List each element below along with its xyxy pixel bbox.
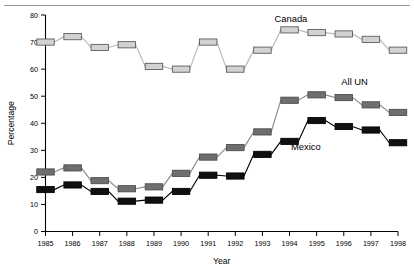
data-point-marker[interactable] [145, 197, 163, 203]
x-tick-label: 1994 [282, 239, 298, 248]
x-tick-label: 1993 [254, 239, 270, 248]
data-point-marker[interactable] [227, 66, 245, 72]
top-divider-rule [4, 5, 410, 6]
x-tick-label: 1991 [200, 239, 216, 248]
data-point-marker[interactable] [254, 129, 271, 135]
data-point-marker[interactable] [199, 172, 217, 178]
data-point-marker[interactable] [389, 47, 407, 53]
data-point-marker[interactable] [362, 36, 380, 42]
data-point-marker[interactable] [118, 198, 136, 204]
data-point-marker[interactable] [37, 169, 55, 175]
y-tick-label: 50 [30, 92, 38, 101]
data-point-marker[interactable] [389, 140, 407, 146]
data-point-marker[interactable] [254, 151, 271, 157]
chart-figure: 0102030405060708019851986198719881989199… [0, 0, 414, 268]
series-all-un: All UN [37, 76, 407, 191]
data-point-marker[interactable] [172, 66, 190, 72]
data-point-marker[interactable] [64, 165, 81, 171]
series-label-mexico: Mexico [291, 141, 321, 152]
x-tick-label: 1985 [38, 239, 54, 248]
y-tick-label: 30 [30, 146, 38, 155]
x-tick-label: 1987 [92, 239, 108, 248]
x-axis-title: Year [213, 256, 231, 266]
data-point-marker[interactable] [389, 109, 407, 115]
data-point-marker[interactable] [37, 39, 55, 45]
series-mexico: Mexico [37, 117, 407, 204]
data-point-marker[interactable] [91, 188, 109, 194]
x-tick-label: 1986 [65, 239, 81, 248]
y-tick-label: 0 [34, 227, 38, 236]
y-tick-label: 10 [30, 200, 38, 209]
data-point-marker[interactable] [254, 47, 271, 53]
x-tick-label: 1998 [390, 239, 406, 248]
series-label-canada: Canada [274, 13, 308, 24]
data-point-marker[interactable] [281, 27, 299, 33]
x-axis-ticks: 1985198619871988198919901991199219931994… [38, 232, 407, 249]
data-point-marker[interactable] [362, 102, 380, 108]
data-point-marker[interactable] [199, 154, 217, 160]
data-point-marker[interactable] [64, 182, 81, 188]
data-point-marker[interactable] [362, 127, 380, 133]
data-point-marker[interactable] [118, 186, 136, 192]
x-tick-label: 1996 [336, 239, 352, 248]
data-point-marker[interactable] [172, 170, 190, 176]
data-point-marker[interactable] [308, 117, 326, 123]
data-point-marker[interactable] [308, 92, 326, 98]
data-point-marker[interactable] [335, 94, 353, 100]
data-point-marker[interactable] [145, 63, 163, 69]
data-point-marker[interactable] [335, 123, 353, 129]
x-tick-label: 1988 [119, 239, 135, 248]
y-tick-label: 80 [30, 11, 38, 20]
series-label-all-un: All UN [341, 76, 368, 87]
x-tick-label: 1995 [309, 239, 325, 248]
y-tick-label: 60 [30, 65, 38, 74]
data-point-marker[interactable] [91, 44, 109, 50]
y-axis-title: Percentage [6, 101, 16, 145]
x-tick-label: 1992 [227, 239, 243, 248]
data-point-marker[interactable] [227, 145, 245, 151]
data-point-marker[interactable] [199, 39, 217, 45]
y-tick-label: 40 [30, 119, 38, 128]
data-point-marker[interactable] [281, 97, 299, 103]
x-tick-label: 1990 [173, 239, 189, 248]
x-tick-label: 1997 [363, 239, 379, 248]
data-point-marker[interactable] [118, 42, 136, 48]
data-point-marker[interactable] [227, 173, 245, 179]
data-point-marker[interactable] [172, 188, 190, 194]
series-connector [37, 95, 407, 189]
x-tick-label: 1989 [146, 239, 162, 248]
series-canada: Canada [37, 13, 407, 72]
data-point-marker[interactable] [37, 186, 55, 192]
data-point-marker[interactable] [64, 34, 81, 40]
data-point-marker[interactable] [308, 29, 326, 35]
percentage-by-year-line-chart: 0102030405060708019851986198719881989199… [0, 0, 414, 268]
data-point-marker[interactable] [335, 31, 353, 37]
data-point-marker[interactable] [145, 184, 163, 190]
data-point-marker[interactable] [91, 178, 109, 184]
